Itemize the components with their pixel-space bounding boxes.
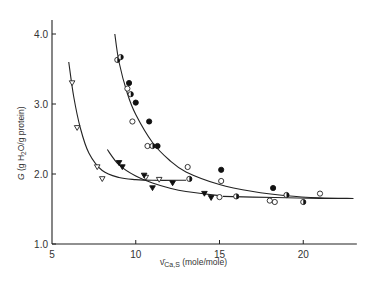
- data-point-half-circle: [118, 55, 123, 60]
- data-point-open-circle: [130, 119, 135, 124]
- data-point-open-circle: [125, 86, 130, 91]
- data-point-open-triangle: [69, 81, 75, 86]
- x-tick-label: 20: [298, 249, 310, 260]
- axes: 51015201.02.03.04.0: [34, 20, 357, 260]
- data-point-filled-triangle: [170, 181, 176, 186]
- data-points: [69, 55, 322, 205]
- data-point-open-circle: [185, 164, 190, 169]
- y-tick-label: 3.0: [34, 99, 48, 110]
- data-point-half-circle: [301, 199, 306, 204]
- data-point-half-circle: [150, 143, 155, 148]
- fit-curve: [107, 150, 219, 196]
- x-tick-label: 5: [49, 249, 55, 260]
- data-point-filled-triangle: [208, 196, 214, 201]
- y-axis-title: G (g H2O/g protein): [16, 106, 27, 180]
- y-tick-label: 4.0: [34, 29, 48, 40]
- data-point-open-circle: [219, 178, 224, 183]
- data-point-open-triangle: [74, 126, 80, 131]
- data-point-open-circle: [267, 198, 272, 203]
- data-point-filled-circle: [147, 119, 152, 124]
- data-point-open-circle: [317, 191, 322, 196]
- data-point-half-circle: [284, 192, 289, 197]
- data-point-open-circle: [217, 195, 222, 200]
- y-tick-label: 2.0: [34, 169, 48, 180]
- data-point-filled-circle: [155, 143, 160, 148]
- data-point-half-circle: [234, 194, 239, 199]
- data-point-open-triangle: [99, 177, 105, 182]
- chart: 51015201.02.03.04.0 ν̄Ca,S (mole/mole) G…: [0, 0, 372, 283]
- data-point-filled-circle: [126, 80, 131, 85]
- data-point-filled-circle: [133, 100, 138, 105]
- data-point-open-circle: [272, 199, 277, 204]
- fit-curves: [69, 34, 354, 199]
- data-point-filled-triangle: [150, 186, 156, 191]
- fit-curve: [115, 34, 354, 199]
- data-point-filled-circle: [219, 167, 224, 172]
- y-tick-label: 1.0: [34, 239, 48, 250]
- data-point-filled-circle: [271, 185, 276, 190]
- data-point-half-circle: [128, 92, 133, 97]
- data-point-half-circle: [187, 176, 192, 181]
- x-tick-label: 10: [130, 249, 142, 260]
- x-axis-title: ν̄Ca,S (mole/mole): [160, 257, 227, 268]
- fit-curve: [69, 62, 186, 180]
- data-point-open-circle: [145, 143, 150, 148]
